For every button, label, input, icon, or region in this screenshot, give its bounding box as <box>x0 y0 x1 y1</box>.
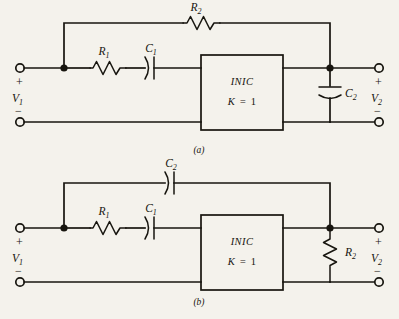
caption-b: (b) <box>193 297 204 308</box>
resistor-r2-label-a: R2 <box>189 1 201 16</box>
resistor-r2-symbol-a <box>183 17 220 30</box>
feedback-wire-right-b <box>174 183 330 228</box>
output-plus-terminal-b[interactable] <box>375 224 383 232</box>
input-plus-sign-b: + <box>16 235 23 249</box>
inic-block-b <box>201 215 283 290</box>
feedback-wire-left-a <box>64 23 183 68</box>
inic-block-name-b: INIC <box>230 236 254 247</box>
input-plus-terminal-b[interactable] <box>16 224 24 232</box>
input-plus-terminal-a[interactable] <box>16 64 24 72</box>
inic-block-a <box>201 55 283 130</box>
resistor-r1-symbol-b <box>90 222 126 235</box>
input-minus-terminal-a[interactable] <box>16 118 24 126</box>
capacitor-c1-label-a: C1 <box>145 42 157 57</box>
inic-block-gain-b: K=1 <box>227 256 257 267</box>
inic-block-name-a: INIC <box>230 76 254 87</box>
input-plus-sign-a: + <box>16 75 23 89</box>
circuit-a: R2 R1 C1 <box>12 1 383 156</box>
capacitor-c2-label-a: C2 <box>345 87 357 102</box>
output-minus-terminal-b[interactable] <box>375 278 383 286</box>
input-minus-terminal-b[interactable] <box>16 278 24 286</box>
circuit-b: C2 R1 C1 INIC K= <box>12 157 383 308</box>
output-plus-sign-a: + <box>375 75 382 89</box>
capacitor-c2-label-b: C2 <box>165 157 177 172</box>
feedback-wire-right-a <box>220 23 330 68</box>
resistor-r2-symbol-b <box>324 228 337 282</box>
resistor-r2-label-b: R2 <box>344 246 356 261</box>
output-minus-terminal-a[interactable] <box>375 118 383 126</box>
inic-block-gain-a: K=1 <box>227 96 257 107</box>
resistor-r1-label-a: R1 <box>97 45 109 60</box>
resistor-r1-label-b: R1 <box>97 205 109 220</box>
output-plus-terminal-a[interactable] <box>375 64 383 72</box>
caption-a: (a) <box>193 145 204 156</box>
capacitor-c1-label-b: C1 <box>145 202 157 217</box>
output-plus-sign-b: + <box>375 235 382 249</box>
resistor-r1-symbol-a <box>90 62 126 75</box>
figure-canvas: R2 R1 C1 <box>0 0 399 319</box>
